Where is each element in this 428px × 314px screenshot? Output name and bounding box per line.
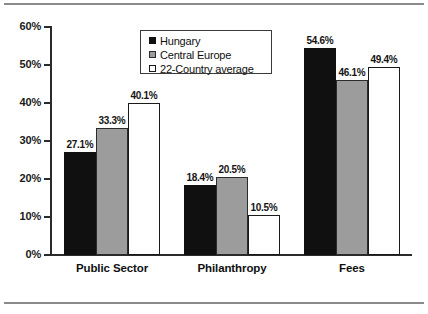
y-tick-mark — [44, 102, 51, 104]
chart-legend: Hungary Central Europe 22-Country averag… — [140, 30, 272, 74]
bar-value-label: 33.3% — [95, 115, 129, 126]
bar-value-label: 49.4% — [367, 54, 401, 65]
y-tick-label-wrap: 50% — [0, 58, 41, 72]
y-tick-mark — [44, 26, 51, 28]
bar — [336, 80, 368, 255]
y-tick-mark — [44, 216, 51, 218]
y-tick-label-wrap: 40% — [0, 96, 41, 110]
x-category-label: Philanthropy — [172, 262, 292, 274]
bottom-rule — [4, 302, 424, 304]
legend-label: 22-Country average — [160, 63, 254, 75]
legend-swatch-icon — [149, 65, 156, 72]
bar-value-label: 18.4% — [183, 172, 217, 183]
y-tick-label: 0% — [1, 248, 41, 260]
bar-value-label: 20.5% — [215, 164, 249, 175]
y-tick-label: 10% — [1, 210, 41, 222]
y-tick-mark — [44, 178, 51, 180]
bar — [184, 185, 216, 255]
legend-item-central-europe: Central Europe — [149, 48, 271, 61]
y-tick-label-wrap: 0% — [0, 248, 41, 262]
y-tick-mark — [44, 254, 51, 256]
y-tick-label: 60% — [1, 20, 41, 32]
y-tick-mark — [44, 140, 51, 142]
legend-swatch-icon — [149, 51, 156, 58]
bar — [216, 177, 248, 255]
y-tick-label-wrap: 20% — [0, 172, 41, 186]
bar — [96, 128, 128, 255]
y-tick-label-wrap: 10% — [0, 210, 41, 224]
y-tick-label: 30% — [1, 134, 41, 146]
y-tick-label-wrap: 60% — [0, 20, 41, 34]
legend-item-22-country-average: 22-Country average — [149, 62, 271, 75]
legend-label: Central Europe — [160, 49, 231, 61]
bar-value-label: 40.1% — [127, 90, 161, 101]
bar — [64, 152, 96, 255]
bar — [128, 103, 160, 255]
bar — [304, 48, 336, 255]
bar-value-label: 46.1% — [335, 67, 369, 78]
y-tick-label: 20% — [1, 172, 41, 184]
bar-value-label: 54.6% — [303, 35, 337, 46]
bar — [368, 67, 400, 255]
y-tick-label: 50% — [1, 58, 41, 70]
legend-swatch-icon — [149, 37, 156, 44]
top-rule — [4, 3, 424, 5]
bar — [248, 215, 280, 255]
legend-item-hungary: Hungary — [149, 34, 271, 47]
y-tick-mark — [44, 64, 51, 66]
bar-value-label: 10.5% — [247, 202, 281, 213]
bar-value-label: 27.1% — [63, 139, 97, 150]
x-category-label: Public Sector — [52, 262, 172, 274]
x-category-label: Fees — [292, 262, 412, 274]
legend-label: Hungary — [160, 35, 200, 47]
y-tick-label-wrap: 30% — [0, 134, 41, 148]
y-tick-label: 40% — [1, 96, 41, 108]
bar-chart: 0%10%20%30%40%50%60% 27.1%33.3%40.1%Publ… — [0, 0, 428, 314]
